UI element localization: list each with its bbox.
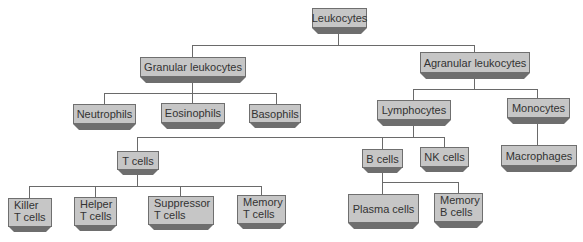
node-memory-t-cells-label: Memory T cells <box>237 195 286 224</box>
label-line-2: B cells <box>440 206 472 218</box>
bevel <box>73 124 136 130</box>
node-granular-leukocytes: Granular leukocytes <box>140 57 246 83</box>
connector <box>444 137 445 147</box>
bevel <box>420 166 469 172</box>
node-lymphocytes: Lymphocytes <box>377 100 451 126</box>
connector <box>382 173 383 194</box>
label-line-1: Suppressor <box>154 197 210 209</box>
node-lymphocytes-label: Lymphocytes <box>377 100 451 120</box>
node-agranular-leukocytes: Agranular leukocytes <box>420 52 530 79</box>
bevel <box>501 166 577 172</box>
node-basophils: Basophils <box>249 104 301 128</box>
node-plasma-cells: Plasma cells <box>348 194 419 229</box>
label-line-1: Helper <box>80 198 112 210</box>
node-nk-cells: NK cells <box>420 147 469 172</box>
bevel <box>74 225 117 231</box>
node-t-cells: T cells <box>117 151 159 175</box>
connector <box>137 137 138 151</box>
node-t-cells-label: T cells <box>117 151 159 170</box>
node-suppressor-t-cells-label: Suppressor T cells <box>148 196 214 225</box>
node-leukocytes: Leukocytes <box>312 8 367 34</box>
node-nk-cells-label: NK cells <box>420 147 469 167</box>
label-line-1: Memory <box>440 194 480 206</box>
node-killer-t-cells-label: Killer T cells <box>8 198 52 227</box>
node-helper-t-cells: Helper T cells <box>74 197 117 231</box>
connector <box>413 89 538 90</box>
connector <box>382 137 383 149</box>
node-agranular-leukocytes-label: Agranular leukocytes <box>420 52 530 73</box>
connector <box>276 93 277 104</box>
connector <box>537 89 538 98</box>
node-memory-b-cells-label: Memory B cells <box>434 193 483 222</box>
connector <box>261 186 262 195</box>
bevel <box>348 223 419 229</box>
bevel <box>8 226 52 232</box>
connector <box>382 182 459 183</box>
connector <box>104 93 105 104</box>
label-line-2: T cells <box>14 211 46 223</box>
label-line-2: T cells <box>80 210 112 222</box>
bevel <box>434 222 483 228</box>
node-granular-leukocytes-label: Granular leukocytes <box>140 57 246 77</box>
leukocyte-tree-diagram: Leukocytes Granular leukocytes Agranular… <box>0 0 583 242</box>
connector <box>95 186 96 197</box>
node-killer-t-cells: Killer T cells <box>8 198 52 232</box>
node-plasma-cells-label: Plasma cells <box>348 194 419 223</box>
node-memory-t-cells: Memory T cells <box>237 195 286 229</box>
bevel <box>377 120 451 126</box>
bevel <box>312 28 367 34</box>
bevel <box>420 73 530 79</box>
bevel <box>140 77 246 83</box>
node-monocytes: Monocytes <box>507 98 570 124</box>
node-leukocytes-label: Leukocytes <box>312 8 367 28</box>
connector <box>180 186 181 196</box>
bevel <box>249 122 301 128</box>
connector <box>458 182 459 193</box>
connector <box>104 93 277 94</box>
bevel <box>362 167 403 173</box>
bevel <box>161 123 225 129</box>
connector <box>192 45 193 57</box>
node-b-cells-label: B cells <box>362 149 403 168</box>
node-basophils-label: Basophils <box>249 104 301 123</box>
node-suppressor-t-cells: Suppressor T cells <box>148 196 214 230</box>
bevel <box>507 118 570 124</box>
connector <box>474 78 475 89</box>
connector <box>413 89 414 100</box>
connector <box>474 45 475 52</box>
node-memory-b-cells: Memory B cells <box>434 193 483 228</box>
node-neutrophils: Neutrophils <box>73 104 136 130</box>
label-line-2: T cells <box>154 209 186 221</box>
connector <box>192 45 475 46</box>
node-monocytes-label: Monocytes <box>507 98 570 118</box>
node-neutrophils-label: Neutrophils <box>73 104 136 124</box>
bevel <box>148 224 214 230</box>
connector <box>29 186 30 198</box>
bevel <box>237 223 286 229</box>
connector <box>537 124 538 145</box>
node-eosinophils: Eosinophils <box>161 103 225 129</box>
connector <box>29 186 262 187</box>
label-line-2: T cells <box>243 208 275 220</box>
node-macrophages-label: Macrophages <box>501 145 577 166</box>
label-line-1: Killer <box>14 199 38 211</box>
node-helper-t-cells-label: Helper T cells <box>74 197 117 226</box>
bevel <box>117 169 159 175</box>
node-b-cells: B cells <box>362 149 403 173</box>
node-macrophages: Macrophages <box>501 145 577 172</box>
node-eosinophils-label: Eosinophils <box>161 103 225 123</box>
connector <box>137 137 445 138</box>
label-line-1: Memory <box>243 196 283 208</box>
